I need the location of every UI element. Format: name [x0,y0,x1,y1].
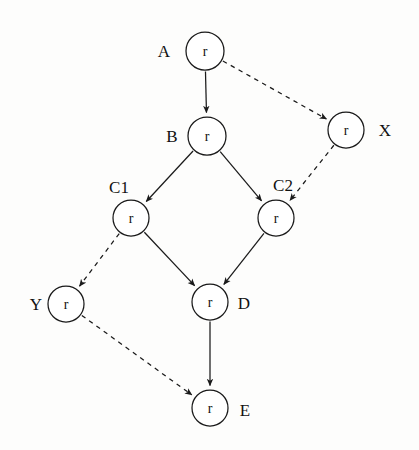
edge-c2-d [224,233,264,284]
node-a[interactable]: rA [158,32,224,70]
node-x[interactable]: rX [328,112,391,148]
node-c2[interactable]: rC2 [258,176,294,237]
node-label-y: Y [30,295,42,314]
node-inner-text-y: r [64,297,69,312]
node-inner-text-c1: r [129,211,134,226]
edge-c1-y [80,234,120,286]
edge-a-x [223,61,326,119]
node-c1[interactable]: rC1 [109,178,149,237]
node-inner-text-b: r [205,129,210,144]
diagram-canvas: rArXrBrC1rC2rYrDrE [0,0,419,450]
edge-b-c1 [146,151,193,201]
node-label-e: E [240,401,250,420]
node-y[interactable]: rY [30,286,84,322]
edge-c1-d [144,232,194,285]
node-inner-text-d: r [208,295,213,310]
graph-svg: rArXrBrC1rC2rYrDrE [0,0,419,450]
node-label-c1: C1 [109,178,129,197]
edge-x-c2 [290,145,334,200]
node-inner-text-a: r [203,44,208,59]
node-b[interactable]: rB [166,117,226,155]
node-label-x: X [379,121,391,140]
node-inner-text-x: r [344,123,349,138]
node-e[interactable]: rE [192,390,250,426]
node-label-b: B [166,127,177,146]
node-label-d: D [238,294,250,313]
node-inner-text-c2: r [274,211,279,226]
node-inner-text-e: r [208,401,213,416]
node-label-c2: C2 [273,176,293,195]
node-d[interactable]: rD [192,284,250,320]
edge-b-c2 [220,152,261,201]
node-label-a: A [158,42,171,61]
edge-y-e [82,315,192,394]
edge-a-b [205,71,206,112]
